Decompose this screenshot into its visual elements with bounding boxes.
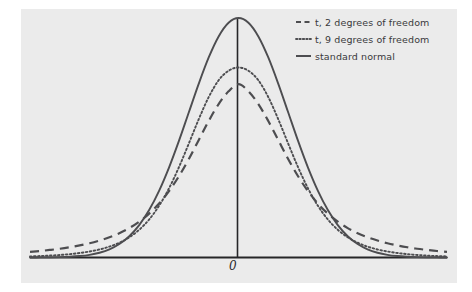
legend-item-standard-normal: standard normal xyxy=(296,48,456,64)
dotted-line-icon xyxy=(296,33,311,45)
curve-t-2-degrees-of-freedom xyxy=(30,84,447,252)
axis-origin-label: 0 xyxy=(229,259,237,273)
legend-label-standard-normal: standard normal xyxy=(315,51,395,62)
legend-item-t-9-degrees-of-freedom: t, 9 degrees of freedom xyxy=(296,31,456,47)
legend-label-t-2-degrees-of-freedom: t, 2 degrees of freedom xyxy=(315,17,429,28)
legend-item-t-2-degrees-of-freedom: t, 2 degrees of freedom xyxy=(296,14,456,30)
legend-label-t-9-degrees-of-freedom: t, 9 degrees of freedom xyxy=(315,34,429,45)
chart-legend: t, 2 degrees of freedom t, 9 degrees of … xyxy=(296,14,456,65)
solid-line-icon xyxy=(296,50,311,62)
curve-t-9-degrees-of-freedom xyxy=(30,67,447,256)
dashed-line-icon xyxy=(296,16,311,28)
figure-container: 0 t, 2 degrees of freedom t, 9 degrees o… xyxy=(0,0,472,292)
